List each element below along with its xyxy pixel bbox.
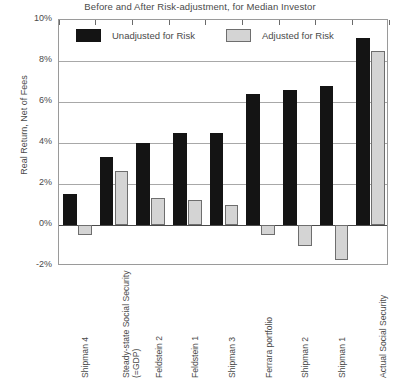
y-tick-label: 6% bbox=[0, 95, 52, 105]
bar-adjusted bbox=[115, 171, 129, 225]
legend-item-adjusted[interactable]: Adjusted for Risk bbox=[226, 28, 334, 42]
chart-legend: Unadjusted for Risk Adjusted for Risk bbox=[58, 19, 388, 49]
bar-adjusted bbox=[151, 198, 165, 225]
bar-adjusted bbox=[188, 200, 202, 225]
bar-unadjusted bbox=[283, 90, 297, 225]
y-tick-label: 8% bbox=[0, 54, 52, 64]
y-tick-label: 10% bbox=[0, 13, 52, 23]
legend-label-adjusted: Adjusted for Risk bbox=[262, 30, 334, 41]
x-category-label: Actual Social Security bbox=[378, 262, 388, 378]
bar-unadjusted bbox=[320, 86, 334, 225]
bar-adjusted bbox=[225, 205, 239, 226]
x-category-label: Shipman 3 bbox=[227, 262, 237, 378]
bar-unadjusted bbox=[173, 133, 187, 225]
x-category-label: Shipman 1 bbox=[337, 262, 347, 378]
x-category-label: Feldstein 1 bbox=[190, 262, 200, 378]
plot-area bbox=[58, 19, 388, 265]
x-category-label: Shipman 2 bbox=[300, 262, 310, 378]
bar-adjusted bbox=[335, 225, 349, 260]
bar-adjusted bbox=[78, 225, 92, 235]
y-tick-label: 2% bbox=[0, 177, 52, 187]
x-axis-category-labels: Shipman 4Steady-state Social Security (=… bbox=[58, 266, 388, 382]
y-tick-label: 0% bbox=[0, 218, 52, 228]
x-category-label: Ferrara portfolio bbox=[264, 262, 274, 378]
gridline bbox=[59, 102, 387, 103]
y-tick-label: -2% bbox=[0, 259, 52, 269]
bar-unadjusted bbox=[100, 157, 114, 225]
y-axis-tick-labels: 10%8%6%4%2%0%-2% bbox=[0, 19, 54, 265]
y-tick-label: 4% bbox=[0, 136, 52, 146]
legend-swatch-unadjusted-icon bbox=[76, 29, 101, 42]
gridline bbox=[59, 61, 387, 62]
bar-unadjusted bbox=[63, 194, 77, 225]
legend-label-unadjusted: Unadjusted for Risk bbox=[112, 30, 195, 41]
bar-adjusted bbox=[261, 225, 275, 235]
bar-adjusted bbox=[371, 51, 385, 225]
bar-unadjusted bbox=[356, 38, 370, 225]
bar-unadjusted bbox=[210, 133, 224, 225]
x-tick bbox=[389, 20, 390, 25]
chart-container: Before and After Risk-adjustment, for Me… bbox=[0, 0, 396, 382]
bar-unadjusted bbox=[136, 143, 150, 225]
legend-swatch-adjusted-icon bbox=[226, 29, 251, 42]
x-category-label: Shipman 4 bbox=[80, 262, 90, 378]
bar-adjusted bbox=[298, 225, 312, 246]
legend-item-unadjusted[interactable]: Unadjusted for Risk bbox=[76, 28, 195, 42]
chart-title: Before and After Risk-adjustment, for Me… bbox=[40, 1, 360, 12]
bar-unadjusted bbox=[246, 94, 260, 225]
x-category-label: Feldstein 2 bbox=[154, 262, 164, 378]
x-category-label: Steady-state Social Security (=GDP) bbox=[121, 262, 141, 378]
